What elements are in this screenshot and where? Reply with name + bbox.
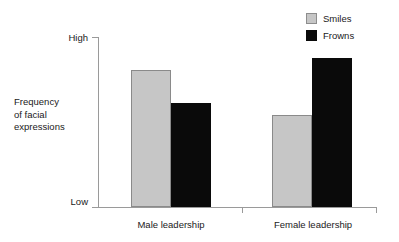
- y-axis-tick-low: [92, 207, 99, 208]
- legend-item-frowns: Frowns: [306, 29, 354, 42]
- bar-female-leadership-frowns: [312, 58, 352, 207]
- x-axis-line: [98, 207, 377, 208]
- legend-swatch-frowns-icon: [306, 30, 317, 41]
- bar-male-leadership-smiles: [131, 70, 171, 207]
- y-axis-title-line-3: expressions: [14, 121, 96, 134]
- y-axis-title: Frequency of facial expressions: [14, 96, 96, 134]
- y-axis-title-line-2: of facial: [14, 109, 96, 122]
- y-axis-label-low: Low: [18, 196, 88, 207]
- bar-male-leadership-frowns: [171, 103, 211, 207]
- y-axis-tick-high: [92, 37, 99, 38]
- bar-female-leadership-smiles: [272, 115, 312, 207]
- category-label-female-leadership: Female leadership: [250, 219, 376, 230]
- legend-label-frowns: Frowns: [323, 30, 354, 41]
- x-axis-tick-end: [376, 207, 377, 213]
- legend-swatch-smiles-icon: [306, 13, 317, 24]
- chart-legend: Smiles Frowns: [306, 12, 354, 42]
- y-axis-line: [98, 37, 99, 207]
- legend-label-smiles: Smiles: [323, 13, 352, 24]
- category-label-male-leadership: Male leadership: [110, 219, 232, 230]
- x-axis-tick-group-divider: [242, 207, 243, 213]
- y-axis-title-line-1: Frequency: [14, 96, 96, 109]
- y-axis-label-high: High: [18, 32, 88, 43]
- legend-item-smiles: Smiles: [306, 12, 354, 25]
- bar-chart-figure: Smiles Frowns High Low Frequency of faci…: [0, 0, 399, 242]
